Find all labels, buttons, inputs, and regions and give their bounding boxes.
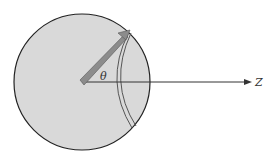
- theta-label: θ: [100, 70, 107, 83]
- diagram-canvas: θ Z: [0, 0, 273, 163]
- z-axis-arrowhead: [244, 79, 252, 85]
- z-axis-label: Z: [254, 76, 263, 89]
